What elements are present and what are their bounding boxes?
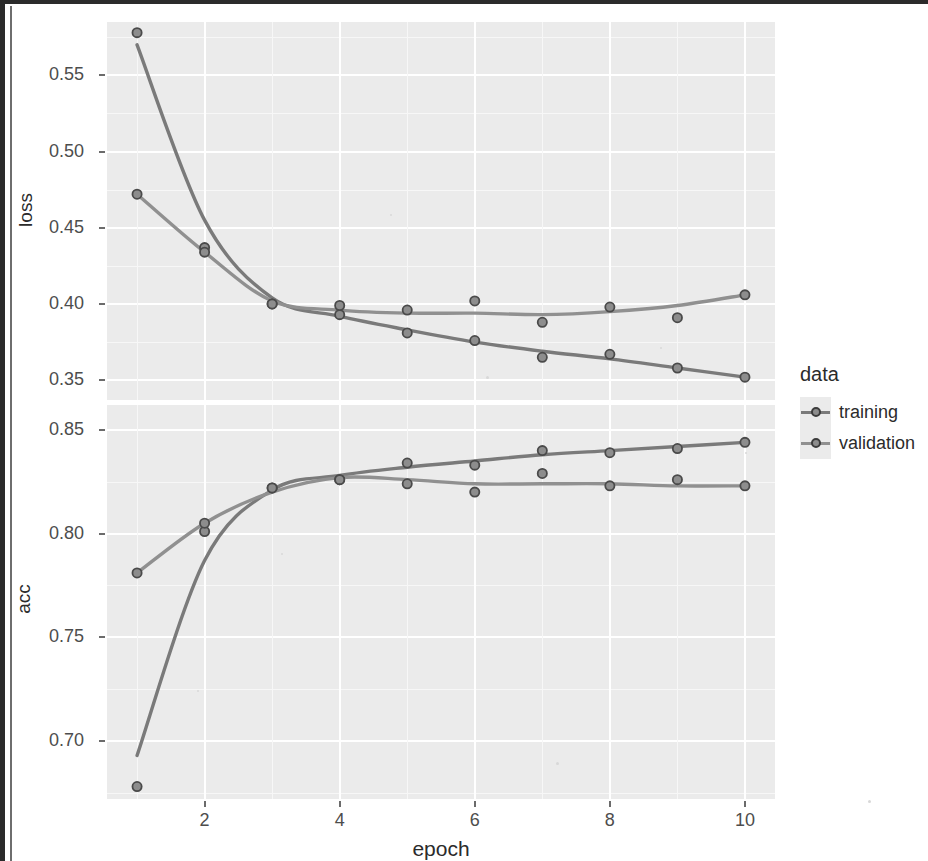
y-tick-label: 0.45 [22, 217, 84, 238]
gridline-horizontal-minor [107, 342, 775, 343]
panel-loss [107, 22, 775, 400]
gridline-vertical [474, 405, 476, 799]
y-tick-label: 0.85 [22, 419, 84, 440]
scan-speckle [745, 452, 747, 454]
gridline-vertical-minor [137, 405, 138, 799]
x-tick-label: 6 [445, 810, 505, 831]
gridline-vertical-minor [542, 22, 543, 400]
legend: data trainingvalidation [800, 363, 920, 459]
gridline-horizontal [107, 303, 775, 305]
scan-speckle [390, 214, 392, 216]
gridline-horizontal-minor [107, 585, 775, 586]
gridline-horizontal [107, 379, 775, 381]
y-tick-mark [99, 227, 105, 229]
y-tick-mark [99, 379, 105, 381]
gridline-horizontal-minor [107, 689, 775, 690]
x-tick-mark [474, 801, 476, 807]
legend-key-icon [800, 428, 831, 459]
gridline-horizontal-minor [107, 190, 775, 191]
plot-area: loss acc epoch 0.550.500.450.400.350.850… [0, 0, 928, 861]
gridline-horizontal [107, 533, 775, 535]
x-tick-label: 4 [310, 810, 370, 831]
gridline-vertical-minor [407, 405, 408, 799]
gridline-vertical [204, 22, 206, 400]
x-tick-mark [339, 801, 341, 807]
y-tick-mark [99, 303, 105, 305]
gridline-vertical [609, 22, 611, 400]
y-tick-mark [99, 636, 105, 638]
gridline-vertical [204, 405, 206, 799]
y-tick-label: 0.40 [22, 293, 84, 314]
scan-speckle [556, 762, 559, 765]
y-tick-mark [99, 74, 105, 76]
gridline-vertical [339, 22, 341, 400]
scan-speckle [868, 800, 871, 803]
y-tick-label: 0.50 [22, 141, 84, 162]
scan-speckle [281, 553, 283, 555]
y-tick-label: 0.80 [22, 523, 84, 544]
y-tick-label: 0.55 [22, 64, 84, 85]
gridline-vertical [609, 405, 611, 799]
gridline-horizontal [107, 151, 775, 153]
x-tick-mark [204, 801, 206, 807]
x-tick-label: 10 [715, 810, 775, 831]
gridline-vertical-minor [272, 22, 273, 400]
chart-figure: loss acc epoch 0.550.500.450.400.350.850… [0, 0, 928, 861]
x-tick-mark [744, 801, 746, 807]
gridline-vertical-minor [272, 405, 273, 799]
gridline-horizontal-minor [107, 266, 775, 267]
gridline-vertical-minor [542, 405, 543, 799]
x-tick-mark [609, 801, 611, 807]
y-tick-mark [99, 151, 105, 153]
gridline-vertical-minor [407, 22, 408, 400]
legend-key-point-icon [811, 438, 821, 448]
y-axis-title-loss: loss [15, 170, 37, 250]
gridline-vertical [339, 405, 341, 799]
legend-items: trainingvalidation [800, 397, 920, 459]
scan-speckle [486, 376, 489, 379]
y-tick-label: 0.75 [22, 626, 84, 647]
scan-speckle [197, 690, 199, 692]
gridline-vertical-minor [677, 22, 678, 400]
legend-item-training[interactable]: training [800, 397, 920, 428]
gridline-vertical [474, 22, 476, 400]
y-tick-label: 0.70 [22, 730, 84, 751]
gridline-vertical-minor [137, 22, 138, 400]
gridline-horizontal [107, 429, 775, 431]
y-tick-mark [99, 740, 105, 742]
gridline-horizontal-minor [107, 482, 775, 483]
x-tick-label: 2 [175, 810, 235, 831]
y-tick-mark [99, 533, 105, 535]
legend-item-validation[interactable]: validation [800, 428, 920, 459]
gridline-horizontal-minor [107, 37, 775, 38]
gridline-horizontal [107, 740, 775, 742]
gridline-horizontal [107, 74, 775, 76]
gridline-vertical [744, 22, 746, 400]
gridline-horizontal-minor [107, 113, 775, 114]
x-axis-title: epoch [107, 837, 775, 861]
x-tick-label: 8 [580, 810, 640, 831]
gridline-horizontal [107, 636, 775, 638]
y-tick-mark [99, 429, 105, 431]
legend-label: training [839, 402, 898, 423]
panel-acc [107, 405, 775, 799]
gridline-vertical [744, 405, 746, 799]
legend-key-point-icon [811, 407, 821, 417]
scan-speckle [660, 347, 662, 349]
legend-label: validation [839, 433, 915, 454]
y-tick-label: 0.35 [22, 369, 84, 390]
gridline-horizontal-minor [107, 793, 775, 794]
legend-key-icon [800, 397, 831, 428]
gridline-vertical-minor [677, 405, 678, 799]
legend-title: data [800, 363, 920, 386]
gridline-horizontal [107, 227, 775, 229]
